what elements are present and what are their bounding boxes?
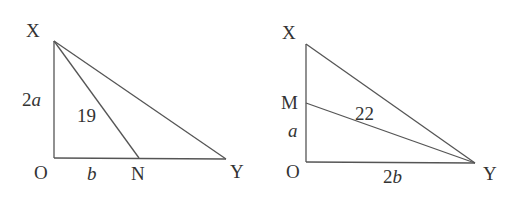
side-label-a: a (288, 120, 298, 141)
side-XY (54, 41, 226, 159)
diagram-canvas: X 2a 19 O b N Y X M 22 a O 2b Y (0, 0, 507, 200)
side-label-2a: 2a (22, 89, 41, 110)
side-label-2b: 2b (383, 166, 402, 187)
side-XY (306, 44, 475, 163)
vertex-label-N: N (131, 163, 145, 184)
vertex-label-O: O (34, 162, 48, 183)
left-triangle: X 2a 19 O b N Y (22, 20, 244, 184)
segment-label-19: 19 (77, 105, 96, 126)
vertex-label-M: M (281, 92, 298, 113)
side-OY (54, 158, 226, 159)
side-label-b: b (87, 163, 97, 184)
segment-MY (306, 103, 475, 163)
segment-label-22: 22 (355, 103, 374, 124)
vertex-label-Y: Y (230, 161, 244, 182)
vertex-label-O: O (286, 161, 300, 182)
vertex-label-Y: Y (483, 163, 497, 184)
segment-XN (54, 41, 139, 158)
side-OY (306, 162, 475, 163)
vertex-label-X: X (26, 20, 40, 41)
vertex-label-X: X (282, 22, 296, 43)
right-triangle: X M 22 a O 2b Y (281, 22, 497, 187)
